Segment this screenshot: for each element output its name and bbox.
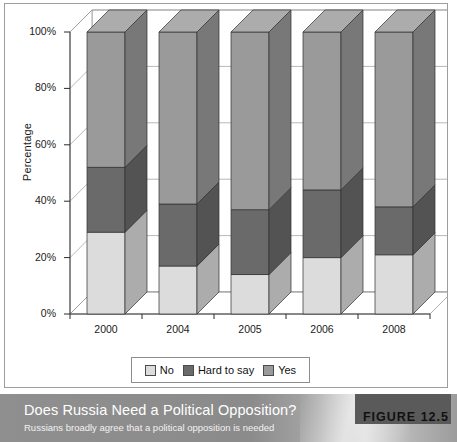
bar-front-face — [87, 167, 125, 232]
figure-caption-title: Does Russia Need a Political Opposition? — [24, 402, 296, 418]
legend-swatch-icon — [263, 365, 274, 376]
y-tick-label: 20% — [16, 251, 56, 263]
x-tick-label: 2008 — [364, 323, 424, 335]
y-tick-label: 40% — [16, 194, 56, 206]
bar-front-face — [303, 32, 341, 190]
x-tick-label: 2000 — [76, 323, 136, 335]
legend-item[interactable]: No — [145, 364, 174, 376]
y-tick-label: 100% — [16, 25, 56, 37]
bar-front-face — [87, 232, 125, 314]
bar-front-face — [231, 275, 269, 314]
bar-side-face — [197, 10, 219, 204]
figure-caption-bar: Does Russia Need a Political Opposition?… — [0, 394, 457, 442]
chart-legend: NoHard to sayYes — [131, 357, 310, 383]
legend-item[interactable]: Hard to say — [183, 364, 254, 376]
bar-front-face — [159, 204, 197, 266]
figure-caption-subtitle: Russians broadly agree that a political … — [24, 422, 274, 433]
figure-root: Percentage 0%20%40%60%80%100% 2000200420… — [0, 0, 457, 442]
bar-front-face — [87, 32, 125, 167]
bar-front-face — [159, 32, 197, 204]
x-tick-label: 2005 — [220, 323, 280, 335]
bar-front-face — [375, 255, 413, 314]
x-tick-label: 2004 — [148, 323, 208, 335]
bar-front-face — [159, 266, 197, 314]
legend-item-label: Hard to say — [198, 364, 254, 376]
bar-side-face — [269, 10, 291, 210]
bar-side-face — [125, 10, 147, 167]
bar-front-face — [231, 32, 269, 210]
legend-item[interactable]: Yes — [263, 364, 296, 376]
bar-front-face — [303, 258, 341, 314]
bar-side-face — [413, 10, 435, 207]
legend-item-label: Yes — [278, 364, 296, 376]
bar-front-face — [375, 207, 413, 255]
x-tick-label: 2006 — [292, 323, 352, 335]
y-tick-label: 60% — [16, 138, 56, 150]
legend-swatch-icon — [183, 365, 194, 376]
y-tick-label: 0% — [16, 307, 56, 319]
bar-front-face — [303, 190, 341, 258]
bar-front-face — [231, 210, 269, 275]
legend-swatch-icon — [145, 365, 156, 376]
figure-number-label: FIGURE 12.5 — [363, 410, 449, 424]
y-tick-label: 80% — [16, 81, 56, 93]
legend-item-label: No — [160, 364, 174, 376]
bar-side-face — [341, 10, 363, 190]
chart-card: Percentage 0%20%40%60%80%100% 2000200420… — [4, 3, 448, 388]
bar-front-face — [375, 32, 413, 207]
